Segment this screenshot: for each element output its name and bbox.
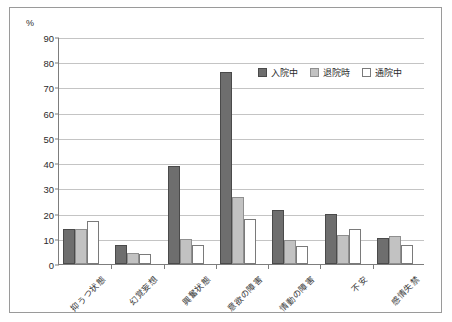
x-axis-tick-mark xyxy=(216,264,217,269)
y-axis-tick-label: 80 xyxy=(43,58,54,69)
bar xyxy=(244,219,256,264)
legend-item: 通院中 xyxy=(362,66,402,79)
bar-group xyxy=(59,38,111,264)
y-axis-tick-label: 50 xyxy=(43,133,54,144)
bar-group xyxy=(111,38,163,264)
bar xyxy=(337,235,349,264)
legend-label: 退院時 xyxy=(323,66,350,79)
bar xyxy=(377,238,389,264)
bar xyxy=(401,245,413,264)
y-axis-unit-label: % xyxy=(26,18,34,28)
bar xyxy=(232,197,244,264)
bar xyxy=(180,239,192,264)
bar xyxy=(220,72,232,264)
bar xyxy=(75,229,87,264)
y-axis-tick-label: 70 xyxy=(43,83,54,94)
chart-figure: % 0102030405060708090 抑うつ状態幻覚妄想興奮状態意欲の障害… xyxy=(0,0,452,322)
bar xyxy=(192,245,204,264)
legend-swatch-icon xyxy=(258,68,267,77)
bar xyxy=(284,240,296,264)
x-axis-tick-mark xyxy=(111,264,112,269)
y-axis-tick-label: 30 xyxy=(43,184,54,195)
bar xyxy=(272,210,284,264)
legend-swatch-icon xyxy=(362,68,371,77)
y-axis-tick-label: 10 xyxy=(43,234,54,245)
x-axis-tick-mark xyxy=(164,264,165,269)
bar xyxy=(63,229,75,264)
legend-item: 入院中 xyxy=(258,66,298,79)
bar xyxy=(127,253,139,264)
y-axis-tick-label: 90 xyxy=(43,33,54,44)
x-axis-tick-mark xyxy=(268,264,269,269)
x-axis-tick-mark xyxy=(373,264,374,269)
bar xyxy=(325,214,337,264)
bar xyxy=(87,221,99,264)
y-axis-tick-label: 40 xyxy=(43,159,54,170)
legend-swatch-icon xyxy=(310,68,319,77)
legend-label: 通院中 xyxy=(375,66,402,79)
y-axis-tick-label: 20 xyxy=(43,209,54,220)
legend-label: 入院中 xyxy=(271,66,298,79)
legend-item: 退院時 xyxy=(310,66,350,79)
bar-group xyxy=(164,38,216,264)
bar xyxy=(296,246,308,264)
y-axis-tick-mark xyxy=(55,265,59,266)
bar xyxy=(168,166,180,264)
y-axis-tick-label: 0 xyxy=(49,260,54,271)
y-axis-tick-label: 60 xyxy=(43,108,54,119)
chart-legend: 入院中退院時通院中 xyxy=(258,66,402,79)
bar xyxy=(115,245,127,264)
bar xyxy=(139,254,151,264)
bar xyxy=(389,236,401,264)
x-axis-tick-mark xyxy=(320,264,321,269)
bar xyxy=(349,229,361,264)
